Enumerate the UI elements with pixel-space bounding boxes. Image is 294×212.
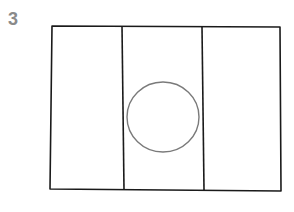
left-divider [122, 26, 124, 190]
outer-rectangle [50, 26, 281, 191]
sketch-canvas: 3 [0, 0, 294, 212]
flag-sketch [0, 0, 294, 212]
right-divider [202, 27, 204, 190]
center-circle [127, 82, 199, 152]
